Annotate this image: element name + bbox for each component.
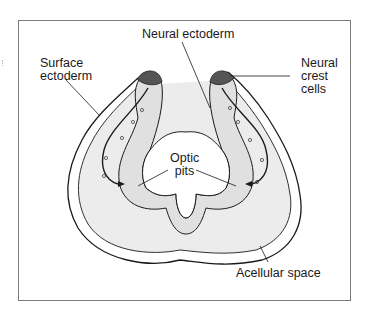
label-neural-ectoderm: Neural ectoderm <box>142 28 234 41</box>
label-acellular-space: Acellular space <box>236 267 321 280</box>
label-surface-ectoderm: Surface ectoderm <box>40 57 92 83</box>
left-neural-crest-cap <box>138 71 162 85</box>
label-neural-crest-cells: Neural crest cells <box>301 57 338 96</box>
label-optic-pits: Optic pits <box>170 152 199 178</box>
